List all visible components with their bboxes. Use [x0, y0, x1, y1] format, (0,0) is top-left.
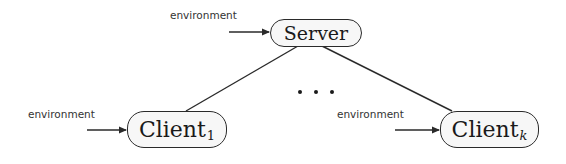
clientk-node-label: Client	[452, 117, 519, 142]
server-node: Server	[270, 19, 362, 47]
clientk-environment-label: environment	[337, 108, 404, 120]
client1-node-label: Client	[139, 117, 206, 142]
client1-node-subscript: 1	[207, 128, 215, 143]
server-environment-label: environment	[170, 9, 237, 21]
clientk-node: Clientk	[440, 111, 539, 148]
ellipsis-dots	[298, 90, 334, 94]
clientk-node-subscript: k	[520, 128, 528, 143]
diagram-canvas: environment environment environment Serv…	[0, 0, 566, 164]
client1-environment-label: environment	[28, 108, 95, 120]
edge-server-clientk	[322, 46, 452, 111]
server-node-label: Server	[284, 22, 348, 44]
client1-node: Client1	[127, 111, 227, 148]
edge-server-client1	[186, 46, 298, 111]
